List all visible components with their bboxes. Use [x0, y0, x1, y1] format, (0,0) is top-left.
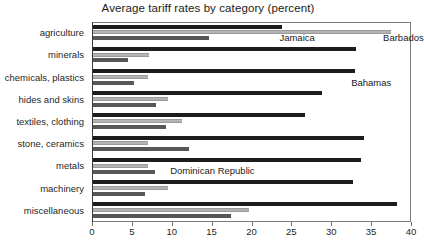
- chart-title: Average tariff rates by category (percen…: [0, 2, 416, 14]
- bar-group: [93, 23, 411, 45]
- y-axis-label-chemicals-plastics: chemicals, plastics: [5, 72, 84, 83]
- y-axis-label-agriculture: agriculture: [40, 27, 84, 38]
- bar-barbados-textiles-clothing[interactable]: [93, 119, 182, 123]
- bar-groups: [93, 23, 411, 222]
- bar-barbados-hides-and-skins[interactable]: [93, 97, 168, 101]
- bar-group: [93, 134, 411, 156]
- y-axis-label-machinery: machinery: [40, 183, 84, 194]
- bar-group: [93, 45, 411, 67]
- bar-group: [93, 179, 411, 201]
- bar-jamaica-minerals[interactable]: [93, 47, 356, 51]
- bar-bahamas-miscellaneous[interactable]: [93, 214, 231, 218]
- bar-group: [93, 90, 411, 112]
- y-axis-label-stone-ceramics: stone, ceramics: [17, 138, 84, 149]
- annotation-dominican-republic: Dominican Republic: [170, 165, 254, 176]
- y-axis-label-minerals: minerals: [48, 49, 84, 60]
- bar-jamaica-agriculture[interactable]: [93, 25, 282, 29]
- bar-bahamas-metals[interactable]: [93, 170, 155, 174]
- annotation-barbados: Barbados: [383, 32, 424, 43]
- bar-bahamas-minerals[interactable]: [93, 58, 128, 62]
- bar-barbados-agriculture[interactable]: [93, 30, 391, 34]
- x-tick-label-5: 5: [129, 226, 134, 237]
- bar-group: [93, 201, 411, 223]
- x-tick-label-40: 40: [406, 226, 417, 237]
- x-tick-label-15: 15: [206, 226, 217, 237]
- bar-jamaica-metals[interactable]: [93, 158, 361, 162]
- annotation-jamaica: Jamaica: [279, 32, 314, 43]
- x-tick-label-35: 35: [366, 226, 377, 237]
- bar-barbados-chemicals-plastics[interactable]: [93, 75, 148, 79]
- y-axis-label-hides-and-skins: hides and skins: [19, 94, 84, 105]
- annotation-bahamas: Bahamas: [351, 77, 391, 88]
- x-tick-label-20: 20: [246, 226, 257, 237]
- bar-barbados-miscellaneous[interactable]: [93, 208, 249, 212]
- x-tick-label-25: 25: [286, 226, 297, 237]
- x-tick-label-0: 0: [89, 226, 94, 237]
- y-axis-label-textiles-clothing: textiles, clothing: [16, 116, 84, 127]
- bar-barbados-metals[interactable]: [93, 164, 148, 168]
- bar-bahamas-agriculture[interactable]: [93, 36, 209, 40]
- bar-bahamas-machinery[interactable]: [93, 192, 145, 196]
- bar-bahamas-chemicals-plastics[interactable]: [93, 81, 134, 85]
- x-tick-label-10: 10: [166, 226, 177, 237]
- y-axis-category-labels: agriculturemineralschemicals, plasticshi…: [0, 22, 88, 222]
- bar-barbados-stone-ceramics[interactable]: [93, 141, 148, 145]
- bar-jamaica-stone-ceramics[interactable]: [93, 136, 364, 140]
- bar-jamaica-miscellaneous[interactable]: [93, 202, 397, 206]
- bar-group: [93, 112, 411, 134]
- bar-bahamas-hides-and-skins[interactable]: [93, 103, 156, 107]
- y-axis-label-metals: metals: [56, 160, 84, 171]
- bar-barbados-machinery[interactable]: [93, 186, 168, 190]
- bar-jamaica-hides-and-skins[interactable]: [93, 91, 322, 95]
- bar-jamaica-machinery[interactable]: [93, 180, 353, 184]
- bar-bahamas-stone-ceramics[interactable]: [93, 147, 189, 151]
- bar-barbados-minerals[interactable]: [93, 53, 149, 57]
- x-tick-label-30: 30: [326, 226, 337, 237]
- y-axis-label-miscellaneous: miscellaneous: [24, 205, 84, 216]
- bar-bahamas-textiles-clothing[interactable]: [93, 125, 166, 129]
- bar-jamaica-textiles-clothing[interactable]: [93, 113, 305, 117]
- bar-jamaica-chemicals-plastics[interactable]: [93, 69, 355, 73]
